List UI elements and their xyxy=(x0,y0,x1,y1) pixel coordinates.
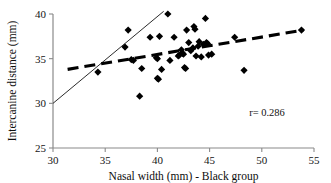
x-tick-label-35: 35 xyxy=(100,154,112,166)
chart-canvas: 25303540303540455055 Nasal width (mm) - … xyxy=(0,0,331,183)
x-tick-label-45: 45 xyxy=(204,154,216,166)
data-point xyxy=(121,43,128,50)
y-tick-label-30: 30 xyxy=(35,97,47,109)
x-tick-label-30: 30 xyxy=(48,154,60,166)
data-point xyxy=(136,93,143,100)
data-markers-group xyxy=(94,10,305,99)
data-point xyxy=(158,66,165,73)
data-point xyxy=(298,26,305,33)
correlation-annotation: r= 0.286 xyxy=(249,107,285,118)
data-point xyxy=(185,39,192,46)
axes-group: 25303540303540455055 xyxy=(35,8,320,166)
data-point xyxy=(183,26,190,33)
data-point xyxy=(171,34,178,41)
data-point xyxy=(202,15,209,22)
data-point xyxy=(164,10,171,17)
y-tick-label-25: 25 xyxy=(35,142,47,154)
y-tick-label-40: 40 xyxy=(35,8,47,20)
data-point xyxy=(94,68,101,75)
x-tick-label-55: 55 xyxy=(309,154,321,166)
x-tick-label-50: 50 xyxy=(256,154,268,166)
data-point xyxy=(156,33,163,40)
data-point xyxy=(198,53,205,60)
data-point xyxy=(146,34,153,41)
y-axis-title: Intercanine distance (mm) xyxy=(6,20,19,141)
x-axis-title: Nasal width (mm) - Black group xyxy=(109,170,259,183)
y-tick-label-35: 35 xyxy=(35,53,47,65)
annotations-group: r= 0.286 xyxy=(249,107,285,118)
scatter-plot-figure: 25303540303540455055 Nasal width (mm) - … xyxy=(0,0,331,183)
x-tick-label-40: 40 xyxy=(152,154,164,166)
data-point xyxy=(166,57,173,64)
regression-line xyxy=(68,30,304,69)
data-point xyxy=(240,67,247,74)
identity-reference-line xyxy=(53,11,164,103)
data-point xyxy=(125,26,132,33)
data-point xyxy=(138,65,145,72)
